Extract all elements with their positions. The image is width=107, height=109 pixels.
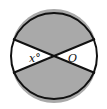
angle-label: x° — [29, 52, 41, 65]
diagram-svg: x° O — [0, 0, 107, 109]
circle-diagram: x° O — [0, 0, 107, 109]
center-label: O — [68, 52, 77, 65]
